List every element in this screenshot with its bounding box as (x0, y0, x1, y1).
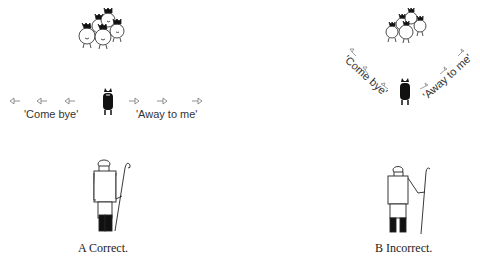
panel-correct: 'Come bye' 'Away to me' A Correct. (0, 0, 240, 259)
sheep-flock-icon (79, 8, 124, 49)
shepherd-with-crook-icon (94, 160, 130, 231)
shepherd-with-crook-icon (388, 167, 430, 235)
come-bye-label: 'Come bye' (24, 108, 78, 120)
away-to-me-arrows (129, 98, 202, 104)
come-bye-label: 'Come bye' (342, 53, 390, 98)
panel-b-drawing: 'Come bye' 'Away to me' (240, 0, 480, 259)
sheepdog-icon (103, 88, 113, 115)
panel-incorrect: 'Come bye' 'Away to me' B Incorrect. (240, 0, 480, 259)
caption-incorrect: B Incorrect. (375, 241, 432, 256)
sheep-flock-icon (386, 8, 426, 43)
away-to-me-label: 'Away to me' (136, 108, 197, 120)
sheepdog-icon (400, 78, 410, 105)
away-to-me-label: 'Away to me' (420, 51, 474, 101)
come-bye-arrows (10, 98, 75, 104)
caption-correct: A Correct. (78, 241, 128, 256)
panel-a-drawing: 'Come bye' 'Away to me' (0, 0, 240, 259)
